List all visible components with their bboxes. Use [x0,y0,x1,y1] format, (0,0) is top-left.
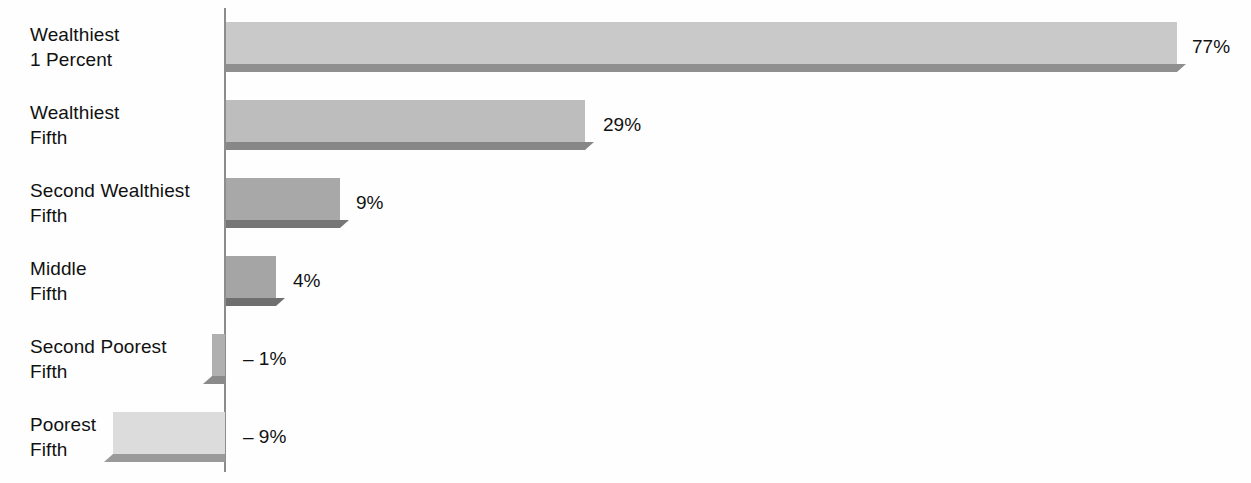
bar-bottom-shade [212,376,225,384]
bar-wealthiest-fifth[interactable] [226,100,585,150]
bar-face [212,334,225,376]
bar-face [113,412,225,454]
bar-bottom-shade [226,142,585,150]
bar-middle-fifth[interactable] [226,256,276,306]
bar-face [226,256,276,298]
bar-second-poorest-fifth[interactable] [212,334,225,384]
bar-end-cap [276,298,285,306]
bar-bottom-shade [226,220,340,228]
bar-end-cap [585,142,594,150]
value-label-wealthiest-fifth: 29% [603,114,641,136]
chart-row-poorest-fifth: Poorest Fifth – 9% [0,398,1251,476]
value-label-second-poorest-fifth: – 1% [243,348,286,370]
chart-row-second-poorest-fifth: Second Poorest Fifth – 1% [0,320,1251,398]
value-label-poorest-fifth: – 9% [243,426,286,448]
category-label-wealthiest-fifth: Wealthiest Fifth [30,100,220,150]
bar-face [226,100,585,142]
category-label-wealthiest-1-percent: Wealthiest 1 Percent [30,22,220,72]
bar-wealthiest-1-percent[interactable] [226,22,1177,72]
chart-row-second-wealthiest-fifth: Second Wealthiest Fifth 9% [0,164,1251,242]
category-label-second-wealthiest-fifth: Second Wealthiest Fifth [30,178,220,228]
chart-row-wealthiest-fifth: Wealthiest Fifth 29% [0,86,1251,164]
bar-bottom-shade [113,454,225,462]
bar-poorest-fifth[interactable] [113,412,225,462]
bar-face [226,178,340,220]
value-label-middle-fifth: 4% [293,270,320,292]
value-label-wealthiest-1-percent: 77% [1192,36,1230,58]
bar-end-cap [1177,64,1186,72]
bar-chart: Wealthiest 1 Percent 77% Wealthiest Fift… [0,0,1251,483]
category-label-second-poorest-fifth: Second Poorest Fifth [30,334,220,384]
chart-row-middle-fifth: Middle Fifth 4% [0,242,1251,320]
bar-end-cap [340,220,349,228]
bar-face [226,22,1177,64]
chart-row-wealthiest-1-percent: Wealthiest 1 Percent 77% [0,8,1251,86]
bar-bottom-shade [226,298,276,306]
category-label-middle-fifth: Middle Fifth [30,256,220,306]
bar-bottom-shade [226,64,1177,72]
bar-second-wealthiest-fifth[interactable] [226,178,340,228]
value-label-second-wealthiest-fifth: 9% [356,192,383,214]
